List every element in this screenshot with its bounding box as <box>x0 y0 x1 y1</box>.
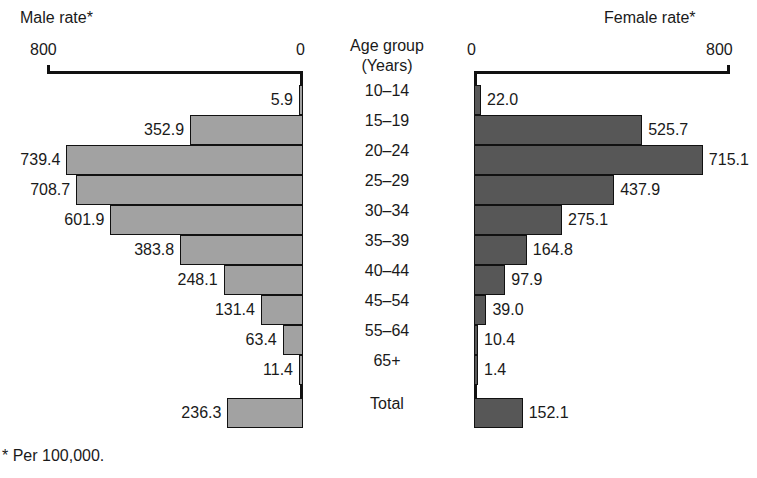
male-bar-value-label: 601.9 <box>64 205 104 235</box>
male-bars-panel: 5.9352.9739.4708.7601.9383.8248.1131.463… <box>0 85 303 417</box>
female-bar-value-label: 10.4 <box>484 325 515 355</box>
age-group-label: 25–29 <box>312 166 462 196</box>
age-group-label: 55–64 <box>312 316 462 346</box>
male-bar-value-label: 739.4 <box>20 145 60 175</box>
bar-row: 10.4 <box>474 325 757 355</box>
male-axis-max-tick <box>47 65 50 74</box>
age-group-header-line2: (Years) <box>312 56 462 76</box>
age-group-label: 35–39 <box>312 226 462 256</box>
female-bar <box>474 265 505 295</box>
bar-row: 437.9 <box>474 175 757 205</box>
age-group-label: Total <box>312 389 462 419</box>
age-group-label: 20–24 <box>312 136 462 166</box>
male-axis-line <box>47 71 303 74</box>
age-group-label: 65+ <box>312 346 462 376</box>
male-bar <box>76 175 303 205</box>
bar-row: 152.1 <box>474 398 757 428</box>
bar-row: 352.9 <box>0 115 303 145</box>
male-bar <box>299 355 303 385</box>
bar-row: 39.0 <box>474 295 757 325</box>
chart-figure: Male rate* Female rate* 800 0 0 800 Age … <box>0 0 757 478</box>
age-group-label: 15–19 <box>312 106 462 136</box>
male-bar <box>66 145 303 175</box>
bar-row: 715.1 <box>474 145 757 175</box>
male-bar-value-label: 708.7 <box>30 175 70 205</box>
female-bar <box>474 295 486 325</box>
female-bar <box>474 115 642 145</box>
male-bar <box>110 205 303 235</box>
female-bar-value-label: 437.9 <box>620 175 660 205</box>
bar-row: 11.4 <box>0 355 303 385</box>
male-axis-max-label: 800 <box>30 41 57 59</box>
female-bar <box>474 175 614 205</box>
female-bar-value-label: 97.9 <box>511 265 542 295</box>
female-bar-value-label: 39.0 <box>492 295 523 325</box>
bar-row: 601.9 <box>0 205 303 235</box>
male-bar <box>299 85 303 115</box>
bar-row: 63.4 <box>0 325 303 355</box>
female-bar <box>474 205 562 235</box>
bar-row: 5.9 <box>0 85 303 115</box>
female-bar <box>474 145 703 175</box>
female-bar <box>474 85 481 115</box>
bar-row: 248.1 <box>0 265 303 295</box>
male-panel-title: Male rate* <box>20 9 93 27</box>
male-axis-zero-label: 0 <box>296 41 305 59</box>
bar-row: 525.7 <box>474 115 757 145</box>
male-bar-value-label: 236.3 <box>181 398 221 428</box>
bar-row: 739.4 <box>0 145 303 175</box>
male-bar <box>261 295 303 325</box>
male-bar <box>180 235 303 265</box>
female-bar-value-label: 525.7 <box>648 115 688 145</box>
bar-row: 22.0 <box>474 85 757 115</box>
age-group-label: 30–34 <box>312 196 462 226</box>
female-axis-max-tick <box>727 65 730 74</box>
male-bar-value-label: 352.9 <box>144 115 184 145</box>
male-bar-value-label: 248.1 <box>178 265 218 295</box>
female-bar <box>474 235 527 265</box>
male-bar-value-label: 383.8 <box>134 235 174 265</box>
female-panel-title: Female rate* <box>604 9 696 27</box>
bar-row: 1.4 <box>474 355 757 385</box>
female-bar-value-label: 715.1 <box>709 145 749 175</box>
footnote: * Per 100,000. <box>2 447 104 465</box>
female-bars-panel: 22.0525.7715.1437.9275.1164.897.939.010.… <box>474 85 757 417</box>
female-bar-value-label: 275.1 <box>568 205 608 235</box>
female-bar-value-label: 1.4 <box>484 355 506 385</box>
female-axis-line <box>474 71 730 74</box>
male-bar-value-label: 131.4 <box>215 295 255 325</box>
bar-row: 131.4 <box>0 295 303 325</box>
bar-row: 164.8 <box>474 235 757 265</box>
female-bar <box>474 355 478 385</box>
age-group-label: 45–54 <box>312 286 462 316</box>
male-bar-value-label: 63.4 <box>246 325 277 355</box>
age-group-label: 40–44 <box>312 256 462 286</box>
female-axis-zero-label: 0 <box>467 41 476 59</box>
bar-row: 97.9 <box>474 265 757 295</box>
male-bar <box>227 398 303 428</box>
age-group-header-line1: Age group <box>312 36 462 56</box>
bar-row: 275.1 <box>474 205 757 235</box>
female-bar <box>474 325 478 355</box>
bar-row: 708.7 <box>0 175 303 205</box>
male-bar-value-label: 5.9 <box>271 85 293 115</box>
age-group-label: 10–14 <box>312 76 462 106</box>
male-bar <box>283 325 303 355</box>
male-bar <box>224 265 303 295</box>
female-bar-value-label: 22.0 <box>487 85 518 115</box>
male-bar <box>190 115 303 145</box>
bar-row: 383.8 <box>0 235 303 265</box>
bar-row: 236.3 <box>0 398 303 428</box>
female-bar-value-label: 164.8 <box>533 235 573 265</box>
male-bar-value-label: 11.4 <box>263 355 293 385</box>
female-bar <box>474 398 523 428</box>
age-group-column: Age group (Years) 10–1415–1920–2425–2930… <box>312 36 462 419</box>
female-bar-value-label: 152.1 <box>529 398 569 428</box>
female-axis-max-label: 800 <box>706 41 733 59</box>
